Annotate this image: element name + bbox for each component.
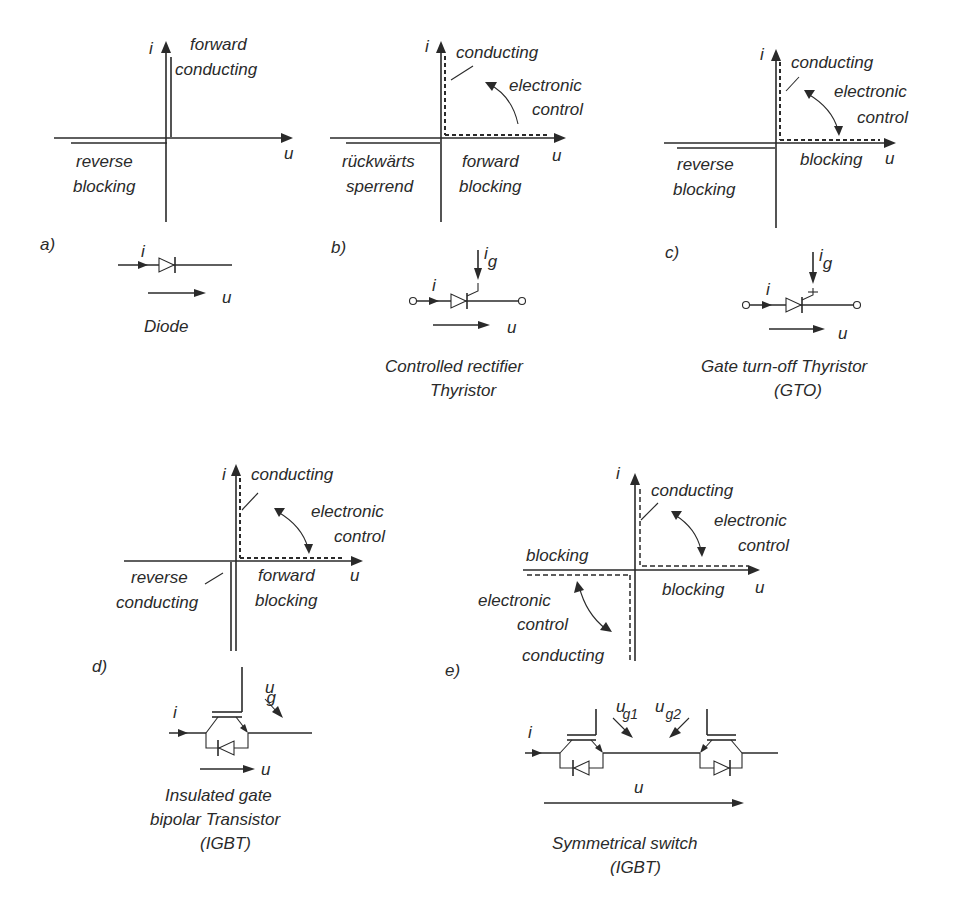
gate-voltage-arrow-icon [621, 727, 633, 738]
control-arrow-icon [834, 126, 843, 136]
current-label: i [173, 703, 178, 722]
axis-label-u: u [885, 149, 895, 168]
u-axis-arrow-icon [554, 133, 566, 143]
caption: Gate turn-off Thyristor [701, 357, 869, 376]
i-axis-arrow-icon [436, 41, 446, 53]
panel-b-characteristic: i u conducting electronic control rückwä… [330, 37, 584, 222]
panel-e-symmetrical-switch: i u conducting electronic control blocki… [445, 464, 790, 877]
leader-line [451, 66, 473, 80]
i-axis-arrow-icon [630, 473, 640, 485]
panel-a-characteristic: i u forward conducting reverse blocking [54, 35, 294, 222]
voltage-arrow-icon [732, 799, 744, 807]
control-label: control [738, 536, 790, 555]
i-axis-arrow-icon [231, 464, 241, 476]
diode-symbol: i u [118, 242, 232, 307]
leader-line [205, 573, 223, 584]
control-arc [278, 512, 308, 548]
i-axis-arrow-icon [161, 41, 171, 53]
terminal-icon [854, 302, 861, 309]
control-arrow-icon [485, 82, 497, 91]
u-axis-arrow-icon [884, 138, 896, 148]
emitter-arrow-icon [240, 724, 248, 733]
region-label: blocking [73, 177, 136, 196]
current-arrow-icon [429, 297, 439, 305]
leader-line [641, 503, 658, 520]
voltage-arrow-icon [813, 325, 825, 333]
terminal-icon [743, 302, 750, 309]
caption: (IGBT) [610, 858, 661, 877]
panel-d-igbt: i u conducting electronic control revers… [92, 464, 386, 853]
region-label: reverse [76, 152, 133, 171]
panel-tag: b) [331, 238, 346, 257]
axis-label-i: i [149, 39, 154, 58]
axis-label-u: u [552, 146, 562, 165]
symmetrical-switch-symbol: i ug1 ug2 u [525, 697, 778, 807]
panel-d-characteristic: i u conducting electronic control revers… [116, 464, 386, 651]
control-label: electronic [311, 502, 384, 521]
gate-current-label: ig [484, 244, 498, 271]
igbt-symbol: i ug u [169, 667, 312, 779]
gto-triangle-icon [786, 298, 801, 312]
current-label: i [766, 280, 771, 299]
region-label: conducting [522, 646, 605, 665]
control-label: control [517, 615, 569, 634]
region-label: rückwärts [342, 152, 415, 171]
freewheel-diode-icon [219, 741, 234, 755]
region-label: conducting [651, 481, 734, 500]
region-label: blocking [662, 580, 725, 599]
region-label: forward [258, 566, 315, 585]
voltage-label: u [222, 288, 232, 307]
region-label: conducting [456, 43, 539, 62]
panel-tag: a) [40, 235, 55, 254]
terminal-icon [519, 298, 526, 305]
gate-voltage-label: ug [265, 678, 276, 707]
region-label: forward [190, 35, 247, 54]
gate-voltage-label: ug2 [655, 697, 681, 722]
region-label: blocking [673, 180, 736, 199]
gto-symbol: i ig u [743, 246, 861, 343]
caption: Insulated gate [165, 786, 272, 805]
voltage-arrow-icon [194, 289, 206, 297]
control-arc [675, 515, 701, 550]
panel-c-gto: i u conducting electronic control revers… [664, 45, 909, 400]
control-label: electronic [714, 511, 787, 530]
panel-b-thyristor: i u conducting electronic control rückwä… [330, 37, 584, 400]
caption: Controlled rectifier [385, 357, 524, 376]
freewheel-diode-icon [574, 761, 589, 775]
power-semiconductor-diagram: i u forward conducting reverse blocking … [0, 0, 953, 905]
control-label: control [532, 100, 584, 119]
leader-line [242, 493, 258, 510]
panel-c-characteristic: i u conducting electronic control revers… [664, 45, 909, 228]
panel-e-characteristic: i u conducting electronic control blocki… [478, 464, 790, 665]
axis-label-i: i [425, 37, 430, 56]
leader-line [786, 77, 799, 91]
gate-lead [802, 288, 813, 300]
voltage-label: u [261, 760, 271, 779]
region-label: blocking [255, 591, 318, 610]
current-arrow-icon [178, 729, 188, 737]
control-label: electronic [478, 591, 551, 610]
i-axis-arrow-icon [771, 49, 781, 61]
control-label: control [857, 108, 909, 127]
u-axis-arrow-icon [748, 565, 760, 575]
voltage-arrow-icon [243, 765, 255, 773]
region-label: blocking [800, 150, 863, 169]
panel-tag: e) [445, 661, 460, 680]
panel-tag: d) [92, 657, 107, 676]
gate-current-label: ig [819, 246, 833, 273]
region-label: conducting [116, 593, 199, 612]
region-label: conducting [175, 60, 258, 79]
voltage-label: u [838, 324, 848, 343]
caption: (GTO) [774, 381, 822, 400]
caption: Symmetrical switch [552, 834, 697, 853]
region-label: blocking [459, 177, 522, 196]
caption: (IGBT) [200, 834, 251, 853]
control-arrow-icon [304, 544, 313, 554]
axis-label-i: i [222, 465, 227, 484]
control-label: electronic [834, 82, 907, 101]
current-label: i [432, 276, 437, 295]
region-label: forward [462, 152, 519, 171]
caption: Thyristor [430, 381, 497, 400]
current-label: i [141, 242, 146, 261]
gate-current-arrow-icon [474, 268, 482, 280]
